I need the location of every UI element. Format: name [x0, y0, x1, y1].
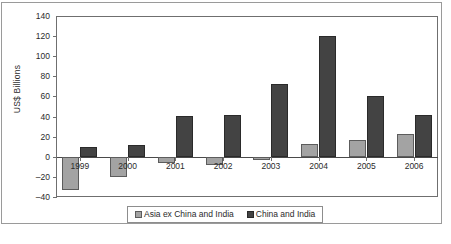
x-axis-label-2003: 2003	[261, 161, 280, 171]
y-axis-tick-label: 120	[26, 31, 50, 41]
y-axis-tick-mark	[53, 197, 57, 198]
y-axis-title: US$ Billions	[12, 49, 22, 129]
x-axis-label-2002: 2002	[214, 161, 233, 171]
legend-swatch-light-square	[135, 211, 142, 218]
bar-2001-china-india	[176, 116, 193, 157]
bar-2000-china-india	[128, 145, 145, 157]
y-axis-tick-label: 100	[26, 51, 50, 61]
plot-area: 140120100806040200–20–40 199920002001200…	[56, 16, 438, 197]
y-axis-tick-label: 0	[26, 152, 50, 162]
y-axis-tick-mark	[53, 96, 57, 97]
bar-2004-china-india	[319, 36, 336, 157]
y-axis-tick-label: –40	[26, 192, 50, 202]
legend-item-asia-ex-china-india: Asia ex China and India	[135, 209, 234, 219]
bar-2003-asia-ex-china-india	[253, 157, 270, 160]
y-axis-tick-mark	[53, 177, 57, 178]
x-axis-label-2006: 2006	[405, 161, 424, 171]
y-axis-tick-mark	[53, 36, 57, 37]
bar-2006-asia-ex-china-india	[397, 134, 414, 157]
chart-legend: Asia ex China and India China and India	[127, 206, 323, 223]
bar-1999-china-india	[80, 147, 97, 157]
y-axis-tick-label: 80	[26, 71, 50, 81]
y-axis-tick-mark	[53, 76, 57, 77]
y-axis-tick-label: –20	[26, 172, 50, 182]
legend-item-china-india: China and India	[247, 209, 316, 219]
y-axis-tick-label: 40	[26, 112, 50, 122]
y-axis-tick-mark	[53, 137, 57, 138]
legend-label: Asia ex China and India	[144, 209, 234, 219]
bar-2004-asia-ex-china-india	[301, 144, 318, 157]
bar-2005-china-india	[367, 96, 384, 156]
bar-2005-asia-ex-china-india	[349, 140, 366, 157]
x-axis-label-2001: 2001	[166, 161, 185, 171]
x-axis-label-1999: 1999	[70, 161, 89, 171]
legend-swatch-dark-square	[247, 211, 254, 218]
caption-fragment	[5, 234, 215, 242]
legend-label: China and India	[256, 209, 316, 219]
y-axis-tick-label: 140	[26, 11, 50, 21]
x-axis-label-2000: 2000	[118, 161, 137, 171]
bar-2002-china-india	[224, 115, 241, 157]
y-axis-tick-label: 20	[26, 132, 50, 142]
figure-container: US$ Billions 140120100806040200–20–40 19…	[0, 0, 451, 244]
y-axis-tick-mark	[53, 56, 57, 57]
y-axis-tick-label: 60	[26, 91, 50, 101]
x-axis-label-2005: 2005	[357, 161, 376, 171]
y-axis-tick-mark	[53, 117, 57, 118]
bar-2006-china-india	[415, 115, 432, 157]
y-axis-tick-mark	[53, 157, 57, 158]
x-axis-label-2004: 2004	[309, 161, 328, 171]
bar-2003-china-india	[271, 84, 288, 156]
